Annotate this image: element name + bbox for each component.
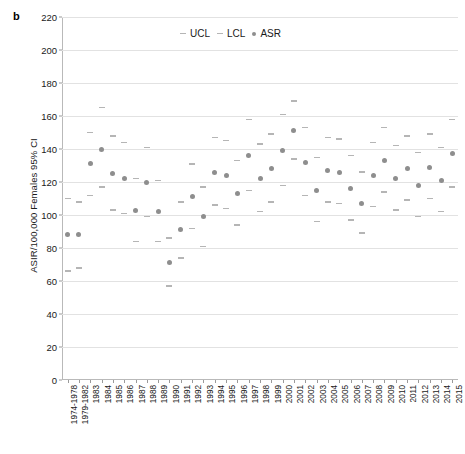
ucl-marker — [449, 119, 455, 120]
x-tick-label: 1995 — [229, 385, 237, 403]
x-tick-mark — [441, 380, 442, 383]
x-tick-mark — [328, 380, 329, 383]
x-tick-label: 2001 — [297, 385, 305, 403]
lcl-marker — [133, 241, 139, 242]
y-tick-mark — [59, 380, 62, 381]
asr-marker — [314, 188, 319, 193]
y-tick-mark — [59, 50, 62, 51]
asr-marker — [427, 165, 432, 170]
ucl-marker — [370, 142, 376, 143]
ucl-marker — [381, 127, 387, 128]
x-tick-label: 1987 — [139, 385, 147, 403]
x-tick-mark — [158, 380, 159, 383]
lcl-marker — [223, 208, 229, 209]
x-tick-mark — [79, 380, 80, 383]
ucl-marker — [212, 137, 218, 138]
y-tick-mark — [59, 149, 62, 150]
x-tick-label: 2002 — [308, 385, 316, 403]
x-tick-mark — [124, 380, 125, 383]
lcl-marker — [370, 206, 376, 207]
ucl-marker — [189, 163, 195, 164]
x-tick-label: 2003 — [320, 385, 328, 403]
asr-marker — [122, 176, 127, 181]
x-tick-label: 1993 — [207, 385, 215, 403]
lcl-marker — [348, 219, 354, 220]
y-tick-mark — [59, 17, 62, 18]
x-tick-mark — [68, 380, 69, 383]
lcl-marker — [449, 186, 455, 187]
lcl-marker — [246, 190, 252, 191]
asr-marker — [337, 170, 342, 175]
ucl-marker — [438, 147, 444, 148]
lcl-marker — [65, 270, 71, 271]
gridline — [62, 347, 458, 348]
lcl-marker — [438, 211, 444, 212]
x-tick-mark — [418, 380, 419, 383]
ucl-marker — [291, 100, 297, 101]
ucl-marker — [234, 160, 240, 161]
x-tick-label: 1994 — [218, 385, 226, 403]
ucl-marker — [268, 133, 274, 134]
gridline — [62, 17, 458, 18]
x-tick-label: 2015 — [456, 385, 464, 403]
y-tick-mark — [59, 182, 62, 183]
ucl-marker — [99, 107, 105, 108]
ucl-marker — [404, 135, 410, 136]
asr-marker — [235, 191, 240, 196]
ucl-marker — [325, 137, 331, 138]
lcl-marker — [381, 191, 387, 192]
lcl-marker — [359, 232, 365, 233]
ucl-marker — [87, 132, 93, 133]
asr-marker — [224, 173, 229, 178]
panel-label: b — [13, 11, 20, 22]
asr-marker — [303, 160, 308, 165]
ucl-marker — [121, 142, 127, 143]
asr-marker — [371, 173, 376, 178]
ucl-marker — [200, 186, 206, 187]
lcl-marker — [314, 221, 320, 222]
y-tick-label: 20 — [46, 342, 57, 353]
x-tick-label: 1974-1978 — [71, 385, 79, 424]
x-tick-label: 1990 — [173, 385, 181, 403]
lcl-marker — [200, 246, 206, 247]
x-tick-label: 2010 — [399, 385, 407, 403]
x-tick-mark — [136, 380, 137, 383]
x-tick-mark — [271, 380, 272, 383]
lcl-marker — [178, 257, 184, 258]
x-tick-label: 2005 — [342, 385, 350, 403]
x-tick-label: 1985 — [116, 385, 124, 403]
x-tick-label: 1998 — [263, 385, 271, 403]
ucl-marker — [393, 145, 399, 146]
asr-marker — [416, 183, 421, 188]
y-tick-label: 220 — [41, 12, 57, 23]
lcl-marker — [427, 198, 433, 199]
ucl-marker — [246, 119, 252, 120]
asr-marker — [99, 147, 104, 152]
x-tick-label: 2000 — [286, 385, 294, 403]
x-tick-label: 2006 — [354, 385, 362, 403]
lcl-marker — [87, 195, 93, 196]
x-tick-label: 1989 — [161, 385, 169, 403]
figure-panel-b: b ASIR/100,000 Females 95% CI UCL LCL AS… — [0, 0, 465, 454]
y-tick-label: 0 — [52, 375, 57, 386]
x-tick-mark — [260, 380, 261, 383]
x-tick-mark — [237, 380, 238, 383]
ucl-marker — [336, 138, 342, 139]
x-tick-label: 2014 — [444, 385, 452, 403]
ucl-marker — [155, 180, 161, 181]
lcl-marker — [393, 209, 399, 210]
asr-marker — [439, 178, 444, 183]
y-tick-label: 60 — [46, 276, 57, 287]
x-tick-label: 2008 — [376, 385, 384, 403]
asr-marker — [133, 208, 138, 213]
x-tick-mark — [192, 380, 193, 383]
x-tick-label: 1988 — [150, 385, 158, 403]
x-tick-label: 1996 — [241, 385, 249, 403]
ucl-marker — [76, 201, 82, 202]
lcl-marker — [325, 201, 331, 202]
x-tick-mark — [113, 380, 114, 383]
x-tick-mark — [90, 380, 91, 383]
plot-area: 020406080100120140160180200220 1974-1978… — [62, 17, 458, 380]
x-tick-mark — [226, 380, 227, 383]
asr-marker — [190, 194, 195, 199]
